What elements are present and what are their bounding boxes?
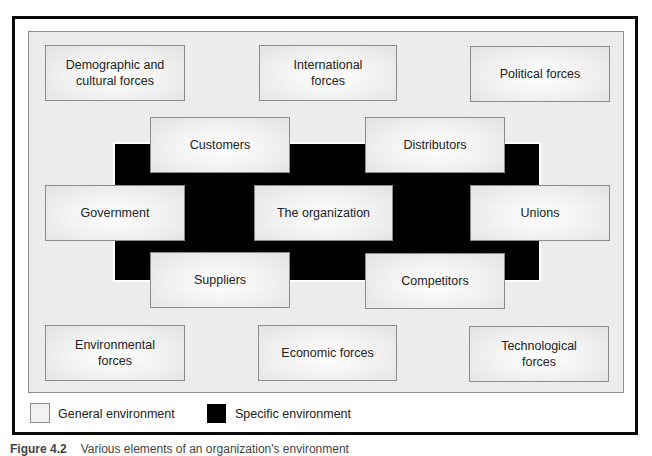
box-label: Unions (521, 205, 560, 221)
box-label: Customers (190, 137, 250, 153)
distributors-box: Distributors (365, 117, 505, 173)
box-label: Economic forces (281, 345, 373, 361)
specific-environment-legend-label: Specific environment (235, 407, 351, 421)
box-label: International forces (294, 57, 363, 89)
political-forces-box: Political forces (470, 46, 610, 102)
suppliers-box: Suppliers (150, 252, 290, 308)
box-label: Competitors (401, 273, 468, 289)
box-label: Government (81, 205, 150, 221)
box-label: Environmental forces (75, 337, 155, 369)
economic-forces-box: Economic forces (258, 325, 397, 381)
international-forces-box: International forces (259, 45, 397, 101)
general-environment-legend-label: General environment (58, 407, 175, 421)
box-label: Technological forces (501, 338, 577, 370)
box-label: Demographic and cultural forces (66, 57, 165, 89)
government-box: Government (45, 185, 185, 241)
figure-number: Figure 4.2 (10, 442, 67, 456)
unions-box: Unions (470, 185, 610, 241)
organization-box: The organization (254, 185, 393, 241)
caption-text: Various elements of an organization's en… (81, 442, 349, 456)
figure-caption: Figure 4.2Various elements of an organiz… (10, 442, 349, 456)
box-label: Distributors (403, 137, 466, 153)
demographic-cultural-forces-box: Demographic and cultural forces (45, 45, 185, 101)
specific-environment-swatch (207, 404, 226, 423)
technological-forces-box: Technological forces (469, 326, 609, 382)
competitors-box: Competitors (365, 253, 505, 309)
general-environment-swatch (30, 403, 50, 423)
box-label: Political forces (500, 66, 581, 82)
environmental-forces-box: Environmental forces (45, 325, 185, 381)
box-label: The organization (277, 205, 370, 221)
box-label: Suppliers (194, 272, 246, 288)
customers-box: Customers (150, 117, 290, 173)
